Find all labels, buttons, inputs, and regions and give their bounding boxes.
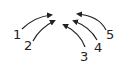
arrow-5-icon (78, 14, 106, 30)
arrow-2-icon (33, 21, 54, 41)
arrow-3-icon (64, 25, 85, 47)
arrow-4-icon (74, 21, 97, 40)
label-3: 3 (80, 50, 88, 63)
label-5: 5 (106, 28, 114, 41)
label-2: 2 (24, 39, 32, 52)
label-4: 4 (94, 41, 102, 54)
label-1: 1 (13, 28, 21, 41)
arrow-1-icon (22, 15, 51, 29)
numbered-arrows-diagram: 1 2 3 4 5 (0, 0, 126, 64)
